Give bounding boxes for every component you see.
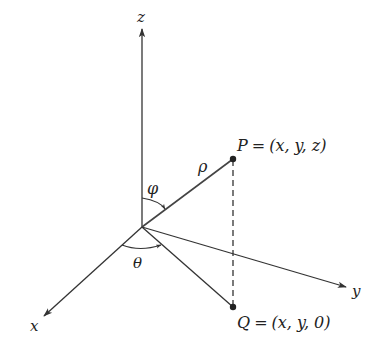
projection-segment	[142, 227, 233, 307]
y-axis	[142, 227, 346, 287]
theta-arc	[122, 245, 161, 249]
point-P-label: P=(x, y, z)	[236, 136, 326, 155]
y-axis-label: y	[351, 282, 361, 300]
point-Q	[230, 304, 236, 310]
spherical-coordinates-diagram: z x y ρ P=(x, y, z) Q=(x, y, 0) φ θ	[0, 0, 367, 344]
x-axis	[44, 227, 142, 316]
phi-label: φ	[147, 179, 159, 198]
x-axis-label: x	[30, 317, 39, 335]
theta-label: θ	[133, 254, 142, 272]
z-axis-label: z	[136, 8, 145, 26]
rho-label: ρ	[197, 157, 208, 176]
phi-arc	[142, 198, 165, 209]
point-Q-label: Q=(x, y, 0)	[237, 313, 330, 332]
point-P	[230, 156, 236, 162]
